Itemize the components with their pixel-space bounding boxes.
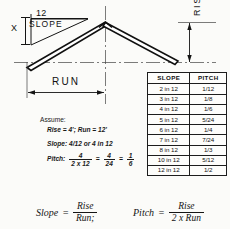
table-cell-slope: 6 in 12: [148, 125, 190, 135]
table-cell-pitch: 1/6: [190, 104, 227, 114]
pitch-fraction-1: 4 2 x 12: [69, 152, 91, 167]
assume-slope-line: Slope: 4/12 or 4 in 12: [40, 141, 145, 148]
table-cell-pitch: 7/24: [190, 135, 227, 145]
pitch-fraction-1-numerator: 4: [77, 152, 85, 159]
pitch-formula-numerator: Rise: [175, 201, 197, 212]
slope-triangle-top-label: 12: [36, 8, 47, 18]
rise-dimension-label: RISE: [192, 0, 202, 16]
table-cell-pitch: 1/8: [190, 94, 227, 104]
rise-arrow-top: [187, 23, 191, 30]
slope-formula: Slope = Rise Run;: [36, 201, 97, 224]
table-cell-slope: 5 in 12: [148, 114, 190, 124]
table-cell-slope: 7 in 12: [148, 135, 190, 145]
table-cell-pitch: 1/3: [190, 145, 227, 155]
assume-rise-run-line: Rise = 4'; Run = 12': [40, 127, 145, 134]
rise-arrow-bottom: [187, 55, 191, 62]
pitch-equals-1: =: [96, 156, 100, 163]
table-cell-slope: 4 in 12: [148, 104, 190, 114]
table-row: 4 in 121/6: [148, 104, 227, 114]
pitch-fraction-3-denominator: 6: [127, 159, 135, 167]
pitch-fraction-3-numerator: 1: [127, 152, 135, 159]
table-cell-pitch: 1/12: [190, 84, 227, 94]
table-cell-slope: 12 in 12: [148, 165, 190, 175]
pitch-fraction-2: 4 24: [104, 152, 115, 167]
table-row: 10 in 125/12: [148, 155, 227, 165]
run-arrow-left: [28, 90, 35, 95]
run-dimension-label: RUN: [52, 76, 80, 87]
table-row: 6 in 121/4: [148, 125, 227, 135]
table-row: 12 in 121/2: [148, 165, 227, 175]
assume-pitch-equation: Pitch: 4 2 x 12 = 4 24 = 1 6: [40, 152, 145, 167]
table-row: 5 in 125/24: [148, 114, 227, 124]
pitch-fraction-1-denominator: 2 x 12: [69, 159, 91, 167]
slope-triangle-inner-label: SLOPE: [29, 19, 63, 29]
formula-row: Slope = Rise Run; Pitch = Rise 2 x Run: [0, 199, 230, 229]
pitch-formula-denominator: 2 x Run: [169, 212, 204, 224]
slope-formula-fraction: Rise Run;: [73, 201, 97, 224]
pitch-fraction-3: 1 6: [127, 152, 135, 167]
table-cell-pitch: 5/12: [190, 155, 227, 165]
rafter-left: [27, 23, 107, 71]
table-header-row: SLOPE PITCH: [148, 73, 227, 84]
rafter-right: [103, 23, 178, 65]
pitch-formula: Pitch = Rise 2 x Run: [133, 201, 204, 224]
run-arrow-right: [97, 90, 104, 95]
table-body: 2 in 121/123 in 121/84 in 121/65 in 125/…: [148, 84, 227, 176]
table-row: 3 in 121/8: [148, 94, 227, 104]
pitch-formula-name: Pitch: [133, 207, 154, 218]
table-cell-pitch: 5/24: [190, 114, 227, 124]
assume-block: Assume: Rise = 4'; Run = 12' Slope: 4/12…: [40, 117, 145, 167]
table-row: 2 in 121/12: [148, 84, 227, 94]
slope-formula-numerator: Rise: [74, 201, 96, 212]
pitch-formula-equals: =: [158, 207, 165, 218]
slope-pitch-table: SLOPE PITCH 2 in 121/123 in 121/84 in 12…: [147, 72, 227, 176]
table-cell-slope: 10 in 12: [148, 155, 190, 165]
table-row: 8 in 121/3: [148, 145, 227, 155]
pitch-formula-fraction: Rise 2 x Run: [169, 201, 204, 224]
pitch-fraction-2-denominator: 24: [104, 159, 115, 167]
table-cell-slope: 2 in 12: [148, 84, 190, 94]
slope-triangle-side-label: X: [11, 23, 17, 33]
table-cell-slope: 8 in 12: [148, 145, 190, 155]
table-cell-pitch: 1/4: [190, 125, 227, 135]
assume-pitch-label: Pitch:: [47, 156, 65, 163]
table-row: 7 in 127/24: [148, 135, 227, 145]
table-header-pitch: PITCH: [190, 73, 227, 84]
pitch-fraction-2-numerator: 4: [105, 152, 113, 159]
table-header-slope: SLOPE: [148, 73, 190, 84]
slope-formula-name: Slope: [36, 207, 58, 218]
roof-slope-pitch-figure: 12 X SLOPE RUN RISE Assume: Rise = 4'; R…: [0, 0, 230, 229]
slope-formula-equals: =: [62, 207, 69, 218]
table-cell-pitch: 1/2: [190, 165, 227, 175]
assume-heading: Assume:: [40, 117, 145, 124]
pitch-equals-2: =: [119, 156, 123, 163]
slope-formula-denominator: Run;: [73, 212, 97, 224]
table-cell-slope: 3 in 12: [148, 94, 190, 104]
